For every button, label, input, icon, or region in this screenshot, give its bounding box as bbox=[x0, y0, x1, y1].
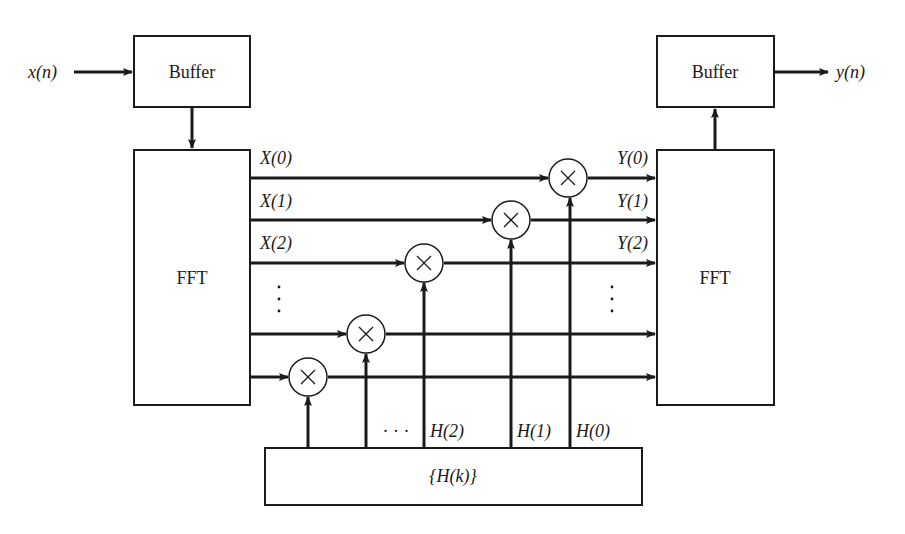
filter-coefficients-block: {H(k)} bbox=[265, 448, 642, 505]
inverse-fft-label: FFT bbox=[699, 268, 730, 288]
output-buffer-label: Buffer bbox=[692, 62, 739, 82]
multiplier-node-4 bbox=[289, 358, 327, 396]
fft-output-x0-label: X(0) bbox=[259, 148, 292, 169]
coeff-horizontal-ellipsis: · · · bbox=[383, 421, 410, 441]
input-buffer-block: Buffer bbox=[134, 36, 250, 107]
coeff-h0-label: H(0) bbox=[575, 421, 610, 442]
output-label: y(n) bbox=[834, 62, 865, 83]
fft-output-x2-label: X(2) bbox=[259, 233, 292, 254]
left-vertical-ellipsis bbox=[278, 286, 281, 313]
input-buffer-label: Buffer bbox=[169, 62, 216, 82]
forward-fft-block: FFT bbox=[134, 150, 250, 405]
multiplier-node-1 bbox=[492, 201, 530, 239]
multiplier-node-0 bbox=[549, 159, 587, 197]
ifft-input-y2-label: Y(2) bbox=[617, 233, 648, 254]
fft-output-x1-label: X(1) bbox=[259, 191, 292, 212]
fft-filter-diagram: x(n) Buffer FFT FFT Buffer y(n) {H(k)} X… bbox=[0, 0, 905, 534]
inverse-fft-block: FFT bbox=[657, 150, 774, 405]
multiplier-node-2 bbox=[405, 244, 443, 282]
input-label: x(n) bbox=[27, 62, 57, 83]
ifft-input-y1-label: Y(1) bbox=[617, 191, 648, 212]
coeff-h1-label: H(1) bbox=[516, 421, 551, 442]
multiplier-node-3 bbox=[347, 315, 385, 353]
coeff-h2-label: H(2) bbox=[429, 421, 464, 442]
ifft-input-y0-label: Y(0) bbox=[617, 148, 648, 169]
right-vertical-ellipsis bbox=[611, 286, 614, 313]
filter-coefficients-label: {H(k)} bbox=[429, 466, 477, 487]
forward-fft-label: FFT bbox=[176, 268, 207, 288]
output-buffer-block: Buffer bbox=[657, 36, 774, 107]
